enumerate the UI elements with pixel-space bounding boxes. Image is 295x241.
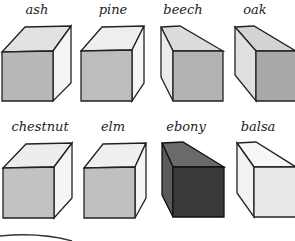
label-oak: oak — [243, 2, 266, 17]
cube-beech — [160, 25, 226, 103]
label-beech: beech — [163, 2, 202, 17]
cube-balsa — [236, 141, 295, 219]
cube-oak — [234, 25, 295, 103]
label-chestnut: chestnut — [11, 119, 68, 134]
label-ebony: ebony — [166, 119, 206, 134]
cube-pine — [80, 25, 148, 103]
label-pine: pine — [99, 2, 128, 17]
decorative-curve — [0, 220, 120, 241]
cube-elm — [83, 143, 149, 221]
cube-chestnut — [2, 143, 74, 221]
label-elm: elm — [101, 119, 125, 134]
label-balsa: balsa — [241, 119, 276, 134]
cube-ash — [1, 25, 73, 103]
cube-ebony — [161, 141, 227, 219]
label-ash: ash — [26, 2, 49, 17]
